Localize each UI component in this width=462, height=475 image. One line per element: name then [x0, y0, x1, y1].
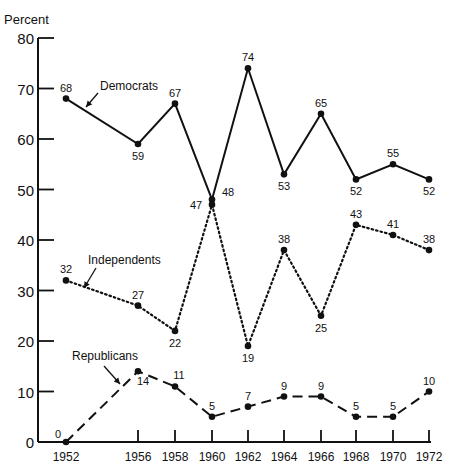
x-tick-label: 1972: [416, 450, 443, 464]
data-label: 14: [137, 375, 149, 387]
data-label: 67: [169, 87, 181, 99]
data-label: 25: [315, 322, 327, 334]
data-label: 10: [423, 375, 435, 387]
data-label: 47: [190, 199, 202, 211]
y-tick-label: 10: [17, 384, 34, 401]
data-label: 27: [132, 289, 144, 301]
data-point: [426, 388, 433, 395]
data-label: 5: [353, 400, 359, 412]
data-label: 65: [315, 97, 327, 109]
y-tick-label: 0: [26, 434, 34, 451]
annotation-democrats: Democrats: [100, 79, 158, 93]
y-tick-label: 80: [17, 30, 34, 47]
data-point: [209, 201, 216, 208]
data-point: [172, 383, 179, 390]
data-point: [281, 247, 288, 254]
data-label: 38: [423, 233, 435, 245]
x-tick-label: 1966: [308, 450, 335, 464]
x-tick-label: 1956: [125, 450, 152, 464]
data-point: [426, 176, 433, 183]
y-axis-title: Percent: [4, 12, 49, 27]
y-tick-label: 60: [17, 131, 34, 148]
data-point: [318, 393, 325, 400]
y-tick-label: 30: [17, 283, 34, 300]
data-label: 0: [55, 428, 61, 440]
x-axis: 1952195619581960196219641966196819701972: [38, 430, 443, 464]
data-point: [63, 95, 70, 102]
data-point: [318, 312, 325, 319]
x-tick-label: 1970: [380, 450, 407, 464]
data-point: [63, 439, 70, 446]
data-label: 38: [278, 233, 290, 245]
x-tick-label: 1958: [162, 450, 189, 464]
data-point: [281, 171, 288, 178]
data-label: 43: [350, 208, 362, 220]
data-point: [390, 161, 397, 168]
data-point: [135, 368, 142, 375]
data-point: [245, 343, 252, 350]
data-label: 41: [387, 218, 399, 230]
y-axis: Percent01020304050607080: [4, 12, 54, 451]
data-label: 7: [245, 390, 251, 402]
data-point: [353, 413, 360, 420]
data-label: 53: [278, 180, 290, 192]
data-labels: 6859674874536552555232272247193825434138…: [55, 51, 435, 440]
data-label: 9: [318, 380, 324, 392]
y-tick-label: 70: [17, 81, 34, 98]
data-point: [353, 222, 360, 229]
data-label: 52: [423, 185, 435, 197]
data-label: 32: [60, 263, 72, 275]
data-point: [281, 393, 288, 400]
data-label: 48: [222, 186, 234, 198]
data-label: 11: [173, 369, 184, 381]
data-point: [209, 413, 216, 420]
annotation-republicans: Republicans: [72, 349, 138, 363]
x-tick-label: 1960: [199, 450, 226, 464]
data-point: [353, 176, 360, 183]
data-point: [135, 302, 142, 309]
x-tick-label: 1952: [53, 450, 80, 464]
party-percent-line-chart: Percent01020304050607080 195219561958196…: [0, 0, 462, 475]
x-tick-label: 1964: [271, 450, 298, 464]
data-label: 22: [169, 337, 181, 349]
series-annotations: DemocratsIndependentsRepublicans: [72, 79, 161, 384]
data-point: [172, 100, 179, 107]
y-tick-label: 20: [17, 333, 34, 350]
data-point: [245, 403, 252, 410]
x-tick-label: 1968: [343, 450, 370, 464]
data-point: [390, 232, 397, 239]
data-point: [318, 110, 325, 117]
data-label: 55: [387, 147, 399, 159]
data-point: [245, 65, 252, 72]
data-label: 19: [242, 352, 254, 364]
data-point: [426, 247, 433, 254]
data-label: 5: [390, 400, 396, 412]
y-tick-label: 50: [17, 182, 34, 199]
series-line-independents: [66, 205, 429, 346]
data-point: [135, 141, 142, 148]
x-tick-label: 1962: [235, 450, 262, 464]
annotation-independents: Independents: [88, 253, 161, 267]
data-point: [172, 328, 179, 335]
data-label: 5: [209, 400, 215, 412]
data-label: 52: [350, 185, 362, 197]
data-point: [390, 413, 397, 420]
data-label: 74: [242, 51, 254, 63]
data-label: 59: [132, 150, 144, 162]
data-label: 9: [281, 380, 287, 392]
data-point: [63, 277, 70, 284]
y-tick-label: 40: [17, 232, 34, 249]
data-label: 68: [60, 82, 72, 94]
